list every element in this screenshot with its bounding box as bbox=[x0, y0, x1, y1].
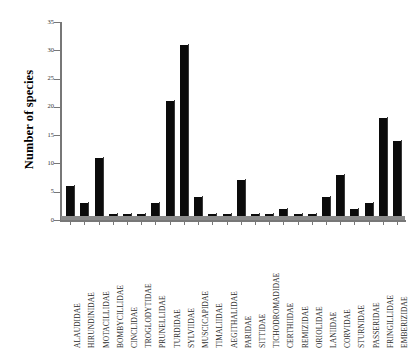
y-axis-tick bbox=[54, 107, 60, 108]
x-axis-tick bbox=[170, 221, 171, 225]
x-axis-tick-label: CORVIDAE bbox=[343, 309, 352, 348]
bars-layer bbox=[60, 22, 406, 220]
y-axis-tick bbox=[54, 79, 60, 80]
x-axis-tick bbox=[184, 221, 185, 225]
y-axis-tick bbox=[54, 220, 60, 221]
x-axis-tick bbox=[127, 221, 128, 225]
y-axis-tick bbox=[54, 135, 60, 136]
y-axis-tick bbox=[54, 163, 60, 164]
y-axis-tick-label: 25 bbox=[38, 75, 54, 82]
x-axis-tick bbox=[198, 221, 199, 225]
bar bbox=[95, 158, 103, 220]
x-axis-tick bbox=[326, 221, 327, 225]
x-axis-tick-label: SITTIDAE bbox=[258, 314, 267, 348]
bar bbox=[166, 101, 174, 220]
bar bbox=[336, 175, 344, 220]
bar bbox=[180, 45, 188, 220]
x-axis-tick bbox=[227, 221, 228, 225]
y-axis-tick bbox=[54, 22, 60, 23]
y-axis-tick-label: 35 bbox=[38, 19, 54, 26]
x-axis-tick-label: LANIIDAE bbox=[329, 311, 338, 348]
x-axis-tick bbox=[269, 221, 270, 225]
x-axis-tick-label: TIMALIIDAE bbox=[215, 303, 224, 348]
x-axis-tick-label: TURDIDAE bbox=[173, 309, 182, 348]
x-axis-tick bbox=[383, 221, 384, 225]
bar bbox=[66, 186, 74, 220]
y-axis-tick-label: 10 bbox=[38, 160, 54, 167]
x-axis-tick bbox=[84, 221, 85, 225]
x-axis-tick bbox=[70, 221, 71, 225]
x-axis-tick bbox=[141, 221, 142, 225]
x-axis-tick-label: PARIDAE bbox=[244, 316, 253, 348]
x-axis-tick-label: PRUNELLIDAE bbox=[158, 295, 167, 348]
x-axis-tick-label: STURNIDAE bbox=[357, 305, 366, 348]
x-axis-tick-label: BOMBYCILLIDAE bbox=[116, 285, 125, 348]
x-axis-tick-label: ORIOLIDAE bbox=[315, 306, 324, 348]
x-axis-tick bbox=[340, 221, 341, 225]
x-axis-tick bbox=[99, 221, 100, 225]
x-axis-tick-label: MUSCICAPIDAE bbox=[201, 291, 210, 348]
y-axis-tick-label: 20 bbox=[38, 103, 54, 110]
x-axis-tick-label: TROGLODYTIDAE bbox=[144, 283, 153, 348]
x-axis-tick bbox=[298, 221, 299, 225]
x-axis-tick-label: AEGITHALIDAE bbox=[230, 291, 239, 348]
bar bbox=[379, 118, 387, 220]
x-axis-tick-label: PASSERIDAE bbox=[372, 302, 381, 348]
bar-chart: Number of species 05101520253035 ALAUDID… bbox=[0, 0, 415, 350]
bar bbox=[393, 141, 401, 220]
x-axis-tick-label: TICHODROMADIDAE bbox=[272, 273, 281, 348]
x-axis-tick-label: ALAUDIDAE bbox=[73, 303, 82, 348]
x-axis-tick-labels: ALAUDIDAEHIRUNDINIDAEMOTACILLIDAEBOMBYCI… bbox=[60, 226, 406, 350]
x-axis-tick-label: EMBERIZIDAE bbox=[400, 296, 409, 348]
x-axis-tick bbox=[212, 221, 213, 225]
x-axis-tick-label: MOTACILLIDAE bbox=[102, 291, 111, 348]
x-axis-tick-label: FRINGILLIDAE bbox=[386, 295, 395, 348]
x-axis-tick bbox=[255, 221, 256, 225]
x-axis-tick-label: REMIZIDAE bbox=[301, 306, 310, 348]
x-axis-tick bbox=[369, 221, 370, 225]
x-axis-tick bbox=[397, 221, 398, 225]
x-axis-tick bbox=[113, 221, 114, 225]
x-axis-tick bbox=[155, 221, 156, 225]
y-axis-tick-label: 5 bbox=[38, 188, 54, 195]
x-axis-tick-label: CINCLIDAE bbox=[130, 307, 139, 348]
y-axis-tick-label: 30 bbox=[38, 47, 54, 54]
y-axis-tick-label: 15 bbox=[38, 132, 54, 139]
y-axis-tick bbox=[54, 50, 60, 51]
x-axis-tick bbox=[283, 221, 284, 225]
x-axis-tick bbox=[241, 221, 242, 225]
x-axis-tick-label: HIRUNDINIDAE bbox=[87, 292, 96, 348]
x-axis-tick bbox=[312, 221, 313, 225]
x-axis-tick-label: CERTHIIDAE bbox=[286, 303, 295, 348]
bar bbox=[237, 180, 245, 220]
x-axis-tick bbox=[354, 221, 355, 225]
y-axis-tick bbox=[54, 192, 60, 193]
y-axis-tick-labels: 05101520253035 bbox=[34, 0, 54, 350]
x-axis-tick-label: SYLVIIDAE bbox=[187, 308, 196, 348]
y-axis-tick-label: 0 bbox=[38, 217, 54, 224]
